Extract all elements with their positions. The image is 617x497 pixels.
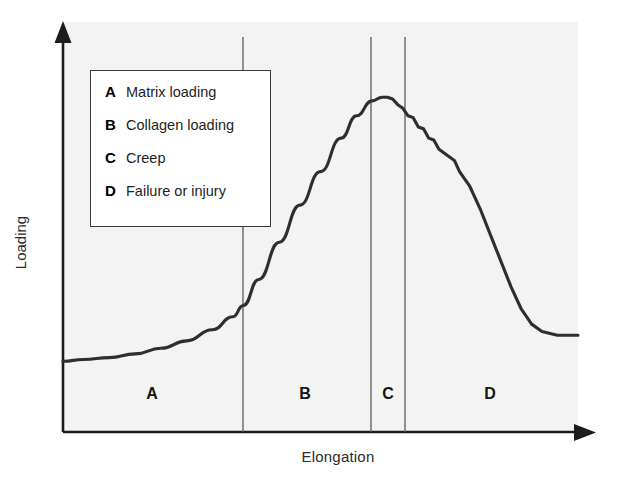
legend-key-c: C bbox=[105, 149, 121, 166]
y-axis-title-wrapper: Loading bbox=[0, 190, 40, 310]
region-marker-b: B bbox=[290, 385, 320, 403]
legend-item-d: D Failure or injury bbox=[105, 182, 270, 215]
region-marker-a: A bbox=[137, 385, 167, 403]
legend-box: A Matrix loading B Collagen loading C Cr… bbox=[90, 70, 271, 227]
load-elongation-chart: A Matrix loading B Collagen loading C Cr… bbox=[0, 0, 617, 497]
legend-key-d: D bbox=[105, 182, 121, 199]
legend-key-b: B bbox=[105, 116, 121, 133]
y-axis-arrowhead-icon bbox=[55, 21, 72, 43]
legend-item-a: A Matrix loading bbox=[105, 83, 270, 116]
region-marker-c: C bbox=[373, 385, 403, 403]
legend-label-d: Failure or injury bbox=[126, 183, 226, 199]
legend-key-a: A bbox=[105, 83, 121, 100]
region-marker-d: D bbox=[475, 385, 505, 403]
legend-label-b: Collagen loading bbox=[126, 117, 234, 133]
x-axis-title: Elongation bbox=[253, 448, 423, 465]
legend-label-c: Creep bbox=[126, 150, 166, 166]
y-axis-title: Loading bbox=[12, 197, 29, 289]
legend-item-c: C Creep bbox=[105, 149, 270, 182]
x-axis-arrowhead-icon bbox=[574, 424, 596, 441]
legend-label-a: Matrix loading bbox=[126, 84, 216, 100]
legend-item-b: B Collagen loading bbox=[105, 116, 270, 149]
